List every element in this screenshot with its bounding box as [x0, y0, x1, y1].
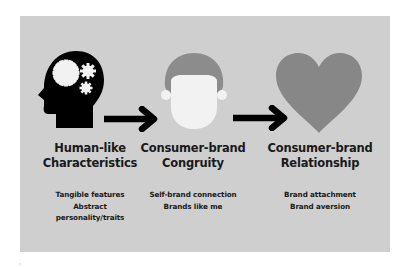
stage-3-items: Brand attachment Brand aversion — [255, 189, 385, 212]
heart-icon — [274, 52, 364, 134]
stage-3-title: Consumer-brand Relationship — [255, 141, 385, 171]
list-item: Brand attachment — [255, 189, 385, 201]
head-with-gears-icon — [36, 48, 106, 130]
list-item: Brands like me — [128, 201, 258, 213]
list-item: Brand aversion — [255, 201, 385, 213]
person-face-icon — [159, 51, 229, 131]
list-item: Self-brand connection — [128, 189, 258, 201]
stage-2-items: Self-brand connection Brands like me — [128, 189, 258, 212]
stage-2-title: Consumer-brand Congruity — [128, 141, 258, 171]
right-arrow-icon — [103, 106, 159, 132]
list-item: personality/traits — [25, 212, 155, 224]
speck — [19, 263, 21, 265]
